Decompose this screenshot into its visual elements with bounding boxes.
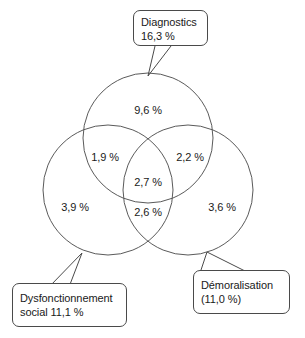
venn-diagram-figure: Diagnostics 16,3 % Dysfonctionnement soc… (0, 0, 305, 338)
region-value-diagnostics-only: 9,6 % (134, 104, 162, 117)
region-value-all-three: 2,7 % (134, 176, 162, 189)
leader-line-dysfonctionnement-social (50, 253, 82, 287)
leader-line-diagnostics (148, 46, 171, 76)
callout-diagnostics-value: 16,3 % (141, 29, 200, 43)
venn-circle-demoralisation (123, 125, 253, 255)
venn-circle-dysfonctionnement-social (43, 125, 173, 255)
callout-demoralisation-label: Démoralisation (201, 278, 282, 292)
region-value-diagnostics-demoralisation: 2,2 % (176, 151, 204, 164)
region-value-dysfonctionnement-only: 3,9 % (61, 201, 89, 214)
region-value-dysfonctionnement-demoralisation: 2,6 % (134, 206, 162, 219)
callout-demoralisation-value: (11,0 %) (201, 292, 282, 306)
region-value-demoralisation-only: 3,6 % (208, 201, 236, 214)
callout-diagnostics-label: Diagnostics (141, 15, 200, 29)
callout-diagnostics: Diagnostics 16,3 % (133, 10, 208, 46)
callout-dysfonctionnement-social-value: social 11,1 % (20, 305, 119, 319)
callout-dysfonctionnement-social: Dysfonctionnement social 11,1 % (12, 283, 127, 327)
region-value-diagnostics-dysfonctionnement: 1,9 % (91, 151, 119, 164)
callout-dysfonctionnement-social-label: Dysfonctionnement (20, 291, 119, 305)
callout-demoralisation: Démoralisation (11,0 %) (193, 270, 290, 314)
